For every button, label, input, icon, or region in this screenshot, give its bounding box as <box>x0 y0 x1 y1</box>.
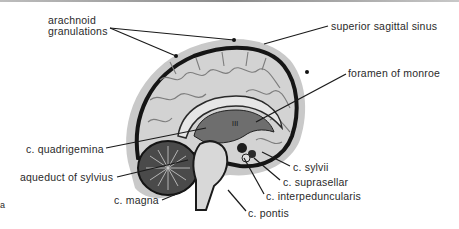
label-c-suprasellar: c. suprasellar <box>283 176 348 188</box>
label-aqueduct-of-sylvius: aqueduct of sylvius <box>20 171 113 183</box>
label-third-ventricle: III <box>232 118 238 130</box>
label-edge-fragment: a <box>0 199 5 211</box>
label-c-pontis: c. pontis <box>248 207 289 219</box>
label-foramen-of-monroe: foramen of monroe <box>348 67 440 79</box>
cistern-interpeduncular <box>237 143 247 153</box>
brainstem <box>193 141 227 210</box>
label-arachnoid-granulations: arachnoid granulations <box>48 15 108 37</box>
label-c-quadrigemina: c. quadrigemina <box>26 143 104 155</box>
label-c-magna: c. magna <box>114 194 159 206</box>
label-c-interpeduncularis: c. interpeduncularis <box>266 190 361 202</box>
label-superior-sagittal-sinus: superior sagittal sinus <box>331 20 437 32</box>
label-c-sylvii: c. sylvii <box>293 161 329 173</box>
